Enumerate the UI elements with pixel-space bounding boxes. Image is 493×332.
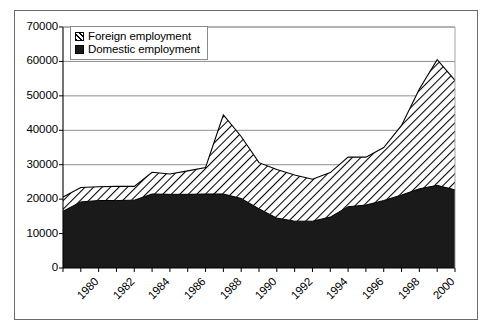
y-axis-tick-label: 10000 <box>12 228 58 240</box>
legend-item-foreign: Foreign employment <box>75 30 200 43</box>
hatch-swatch-icon <box>75 32 84 41</box>
y-axis-tick-label: 40000 <box>12 124 58 136</box>
chart-figure: 010000200003000040000500006000070000 198… <box>0 0 493 332</box>
chart-legend: Foreign employment Domestic employment <box>70 26 208 60</box>
y-axis-tick-label: 50000 <box>12 90 58 102</box>
legend-item-domestic: Domestic employment <box>75 43 200 56</box>
x-axis-tick-marks <box>63 268 455 272</box>
legend-label-foreign: Foreign employment <box>88 31 191 43</box>
y-axis-tick-label: 30000 <box>12 159 58 171</box>
y-axis-tick-label: 0 <box>12 262 58 274</box>
y-axis-tick-marks <box>59 27 63 268</box>
y-axis-tick-label: 20000 <box>12 193 58 205</box>
y-axis-tick-label: 60000 <box>12 55 58 67</box>
legend-label-domestic: Domestic employment <box>88 44 200 56</box>
solid-swatch-icon <box>75 45 84 54</box>
y-axis-tick-label: 70000 <box>12 21 58 33</box>
